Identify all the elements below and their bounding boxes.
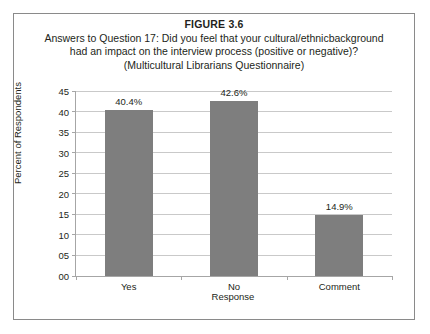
y-axis-tick: [72, 234, 76, 235]
y-axis-label: 40: [58, 106, 69, 117]
y-axis-label: 10: [58, 229, 69, 240]
y-axis-label: 20: [58, 188, 69, 199]
y-axis-label: 45: [58, 86, 69, 97]
bar-value-label: 40.4%: [115, 96, 142, 107]
y-axis-label: 25: [58, 168, 69, 179]
y-axis-tick: [72, 111, 76, 112]
bar-no: [210, 101, 258, 276]
x-axis-title: Response: [75, 291, 391, 302]
bar-value-label: 14.9%: [326, 201, 353, 212]
y-axis-label: 05: [58, 250, 69, 261]
x-axis-tick: [76, 276, 77, 280]
y-axis-tick: [72, 173, 76, 174]
y-axis-tick: [72, 214, 76, 215]
bar-value-label: 42.6%: [221, 87, 248, 98]
y-axis-label: 00: [58, 271, 69, 282]
y-axis-label: 35: [58, 127, 69, 138]
y-axis-tick: [72, 193, 76, 194]
figure-frame: FIGURE 3.6 Answers to Question 17: Did y…: [13, 13, 415, 320]
y-axis-label: 15: [58, 209, 69, 220]
y-axis-title: Percent of Respondents: [12, 82, 23, 184]
y-axis-tick: [72, 152, 76, 153]
y-axis-tick: [72, 91, 76, 92]
plot-area: 0005101520253035404540.4%Yes42.6%No14.9%…: [75, 91, 392, 277]
y-axis-tick: [72, 132, 76, 133]
bar-comment: [315, 215, 363, 276]
x-axis-tick: [287, 276, 288, 280]
bar-chart: Percent of Respondents 00051015202530354…: [14, 14, 416, 321]
x-axis-tick: [392, 276, 393, 280]
y-axis-tick: [72, 255, 76, 256]
bar-yes: [105, 110, 153, 276]
y-axis-label: 30: [58, 147, 69, 158]
x-axis-tick: [181, 276, 182, 280]
